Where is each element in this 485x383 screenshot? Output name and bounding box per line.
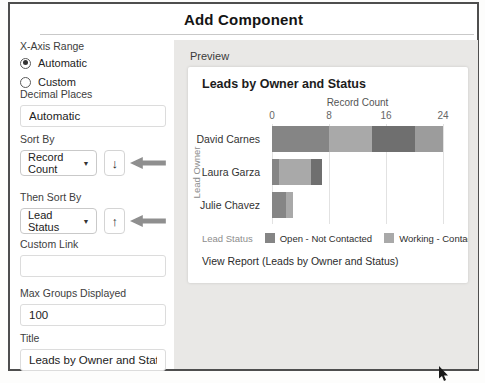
dialog-title: Add Component [10,11,477,28]
title-field-label: Title [20,332,166,344]
sort-by-dropdown[interactable]: Record Count ▼ [20,150,97,176]
legend-swatch-icon [384,233,394,243]
preview-label: Preview [190,50,229,62]
bar-segment [329,126,372,152]
legend-items: Open - Not ContactedWorking - ContactedC [265,233,468,244]
preview-panel: Preview Leads by Owner and Status Record… [174,40,478,369]
legend-item-label: Open - Not Contacted [280,233,372,244]
decimal-places-label: Decimal Places [20,88,166,100]
then-sort-by-label: Then Sort By [20,191,166,203]
legend-swatch-icon [265,233,275,243]
max-groups-group: Max Groups Displayed [20,287,166,326]
annotation-arrow-left-icon [130,213,166,229]
then-sort-by-value: Lead Status [28,209,78,233]
max-groups-input[interactable] [20,304,166,326]
x-tick-label: 16 [380,110,391,121]
radio-button-icon[interactable] [20,58,31,69]
then-sort-by-direction-button[interactable]: ↑ [104,208,125,234]
chevron-down-icon: ▼ [82,218,89,225]
stacked-bar [272,192,293,218]
custom-link-input[interactable] [20,255,166,277]
bar-segment [272,192,286,218]
title-field-group: Title [20,332,166,371]
sort-by-label: Sort By [20,133,166,145]
then-sort-by-group: Then Sort By Lead Status ▼ ↑ [20,191,166,234]
bar-segment [272,126,329,152]
bar-segment [286,192,293,218]
x-axis-range-group: X-Axis Range Automatic Custom [20,40,166,95]
bar-segment [272,159,279,185]
x-axis-range-label: X-Axis Range [20,40,166,52]
legend-item: Open - Not Contacted [265,233,372,244]
view-report-link[interactable]: View Report (Leads by Owner and Status) [202,255,399,267]
arrow-down-icon: ↓ [112,156,119,171]
sort-by-value: Record Count [28,151,78,175]
radio-custom[interactable]: Custom [20,76,166,88]
x-tick-label: 0 [269,110,275,121]
bar-segment [415,126,444,152]
max-groups-label: Max Groups Displayed [20,287,166,299]
legend-item: Working - Contacted [384,233,468,244]
y-axis-title: Lead Owner [191,143,202,203]
legend-item-label: Working - Contacted [399,233,468,244]
sort-by-group: Sort By Record Count ▼ ↓ [20,133,166,176]
x-tick-label: 24 [437,110,448,121]
custom-link-label: Custom Link [20,238,166,250]
annotation-arrow-left-icon [130,155,166,171]
bar-segment [279,159,311,185]
bar-segment [311,159,322,185]
add-component-dialog: Add Component X-Axis Range Automatic Cus… [8,2,479,371]
chevron-down-icon: ▼ [82,160,89,167]
stacked-bar [272,159,322,185]
arrow-up-icon: ↑ [112,214,119,229]
category-label: David Carnes [196,126,260,152]
chart-card: Leads by Owner and Status Record Count 0… [188,67,468,283]
title-input[interactable] [20,349,166,371]
mouse-cursor-icon [438,366,449,382]
category-label: Julie Chavez [200,192,260,218]
stacked-bar [272,126,443,152]
chart-title: Leads by Owner and Status [202,77,366,91]
x-ticks: 081624 [272,110,462,122]
x-axis-title: Record Count [272,97,443,108]
radio-button-icon[interactable] [20,77,31,88]
plot-area [272,124,462,224]
legend: Lead Status Open - Not ContactedWorking … [202,231,468,245]
sort-by-direction-button[interactable]: ↓ [104,150,125,176]
category-label: Laura Garza [202,159,260,185]
radio-automatic-label: Automatic [38,57,87,69]
decimal-places-group: Decimal Places [20,88,166,127]
x-tick-label: 8 [326,110,332,121]
radio-automatic[interactable]: Automatic [20,57,166,69]
bar-segment [372,126,415,152]
gridline [443,124,444,224]
title-divider [40,34,474,35]
decimal-places-input[interactable] [20,105,166,127]
then-sort-by-dropdown[interactable]: Lead Status ▼ [20,208,97,234]
radio-custom-label: Custom [38,76,76,88]
custom-link-group: Custom Link [20,238,166,277]
legend-title: Lead Status [202,233,253,244]
